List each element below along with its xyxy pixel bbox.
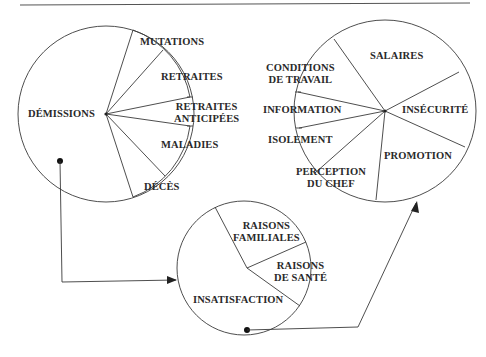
label-insatisfaction: INSATISFACTION (193, 294, 283, 306)
top-rule (20, 3, 470, 5)
label-demissions: DÉMISSIONS (28, 108, 95, 120)
label-sante-line2: DE SANTÉ (274, 272, 327, 284)
label-familiales-line1: RAISONS (233, 220, 300, 232)
label-familiales-line2: FAMILIALES (233, 232, 300, 244)
label-salaires: SALAIRES (370, 50, 423, 62)
label-retraites: RETRAITES (161, 71, 223, 83)
label-deces: DÉCÈS (144, 181, 180, 193)
label-raisons-familiales: RAISONS FAMILIALES (233, 220, 300, 244)
label-conditions-line2: DE TRAVAIL (266, 74, 335, 86)
label-sante-line1: RAISONS (274, 260, 327, 272)
label-perception-line2: DU CHEF (296, 178, 366, 190)
label-perception-du-chef: PERCEPTION DU CHEF (296, 166, 366, 190)
label-perception-line1: PERCEPTION (296, 166, 366, 178)
label-maladies: MALADIES (161, 139, 218, 151)
label-raisons-de-sante: RAISONS DE SANTÉ (274, 260, 327, 284)
label-conditions-line1: CONDITIONS (266, 62, 335, 74)
label-mutations: MUTATIONS (140, 36, 204, 48)
label-retraites-anticipees-line1: RETRAITES (174, 101, 239, 113)
left-pie-hub (104, 112, 107, 115)
right-pie-hub (383, 109, 386, 112)
arrow-demissions-to-bottom (57, 158, 177, 284)
label-insecurite: INSÉCURITÉ (402, 104, 468, 116)
label-isolement: ISOLEMENT (268, 134, 333, 146)
label-retraites-anticipees: RETRAITES ANTICIPÉES (174, 101, 239, 125)
label-retraites-anticipees-line2: ANTICIPÉES (174, 113, 239, 125)
label-promotion: PROMOTION (384, 150, 452, 162)
label-conditions-de-travail: CONDITIONS DE TRAVAIL (266, 62, 335, 86)
label-information: INFORMATION (263, 104, 342, 116)
